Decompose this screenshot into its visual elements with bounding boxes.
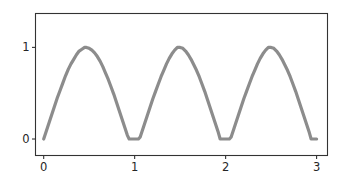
y-tick-label-0: 0	[22, 132, 29, 146]
plot-canvas: 0123 01	[0, 0, 343, 188]
x-tick-label-2: 2	[222, 160, 229, 174]
y-tick-label-1: 1	[22, 40, 29, 54]
x-tick-label-3: 3	[313, 160, 320, 174]
x-tick-label-0: 0	[40, 160, 47, 174]
figure: 0123 01	[0, 0, 343, 188]
axes-background	[36, 14, 328, 156]
x-tick-label-1: 1	[131, 160, 138, 174]
